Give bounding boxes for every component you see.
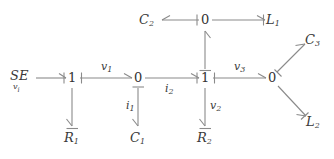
junction-one-1: 1 bbox=[68, 71, 76, 84]
bond-label-v3: v3 bbox=[234, 61, 245, 72]
bond-se-to-one bbox=[36, 73, 66, 84]
element-r1: R1 bbox=[64, 131, 79, 144]
source-effort-label: SE bbox=[10, 68, 28, 83]
element-c1: C1 bbox=[130, 131, 145, 144]
bond-label-i2: i2 bbox=[165, 83, 174, 94]
bond-one-to-zero-v1 bbox=[80, 73, 132, 84]
bond-zeroright-to-l2 bbox=[278, 86, 309, 120]
element-r2: R2 bbox=[197, 131, 212, 144]
bond-one-to-zero-up bbox=[200, 31, 212, 71]
bond-zerotop-to-l1 bbox=[212, 15, 265, 26]
element-l2: L2 bbox=[306, 115, 320, 128]
bond-zerotop-to-c2 bbox=[162, 15, 199, 26]
bond-label-i1: i1 bbox=[126, 100, 135, 111]
junction-zero-2: 0 bbox=[268, 71, 276, 84]
bond-label-v2: v2 bbox=[210, 100, 221, 111]
element-c3: C3 bbox=[305, 33, 320, 46]
source-effort-se: SE vi bbox=[10, 69, 28, 93]
element-c2: C2 bbox=[139, 13, 154, 26]
bond-graph-diagram: .ln { stroke: #8a8a8a; stroke-width: 1.1… bbox=[0, 0, 334, 159]
source-effort-subscript: vi bbox=[10, 83, 28, 93]
bond-zeroright-to-c3 bbox=[275, 44, 306, 77]
junction-zero-1: 0 bbox=[134, 71, 142, 84]
bond-zero-to-one-i2 bbox=[145, 73, 199, 84]
bond-graph-edges: .ln { stroke: #8a8a8a; stroke-width: 1.1… bbox=[0, 0, 334, 159]
junction-one-2: 1 bbox=[201, 71, 209, 84]
bond-one-to-zero-v3 bbox=[213, 73, 266, 84]
junction-zero-top: 0 bbox=[201, 13, 209, 26]
bond-label-v1: v1 bbox=[101, 61, 112, 72]
element-l1: L1 bbox=[266, 13, 280, 26]
bond-one-to-r1 bbox=[67, 88, 79, 129]
